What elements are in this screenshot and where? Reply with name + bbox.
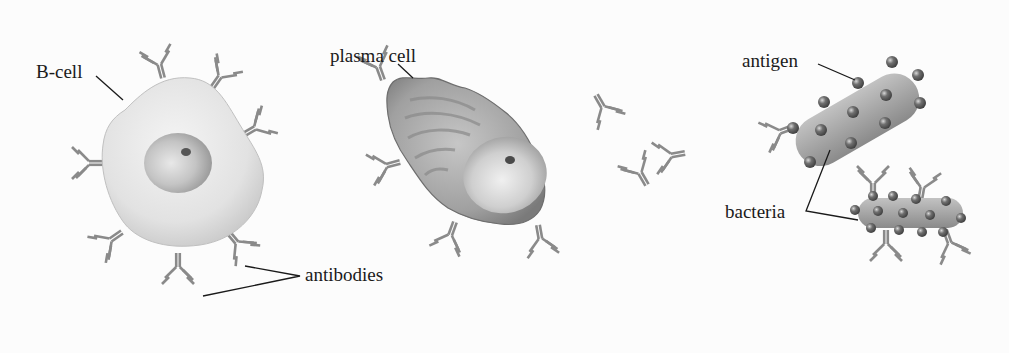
label-antibodies: antibodies xyxy=(305,264,383,285)
label-b-cell: B-cell xyxy=(36,61,82,82)
label-plasma-cell: plasma cell xyxy=(330,45,416,66)
label-bacteria: bacteria xyxy=(725,201,786,222)
leader-plasma-cell xyxy=(398,64,413,78)
label-antigen: antigen xyxy=(742,50,798,71)
free-antibodies xyxy=(582,87,688,193)
diagram-canvas: B-cell plasma cell antibodies antigen ba… xyxy=(0,0,1009,353)
leader-antigen xyxy=(818,64,855,80)
bacterium-small xyxy=(850,166,971,265)
b-cell xyxy=(72,44,278,284)
plasma-cell-nucleolus xyxy=(505,156,515,164)
b-cell-nucleolus xyxy=(181,148,191,156)
leader-antibodies xyxy=(203,266,300,296)
immune-response-diagram: B-cell plasma cell antibodies antigen ba… xyxy=(0,0,1009,353)
plasma-cell xyxy=(357,45,559,258)
leader-b-cell xyxy=(96,76,123,100)
bacterium-large xyxy=(758,56,928,175)
b-cell-nucleus xyxy=(144,133,212,193)
